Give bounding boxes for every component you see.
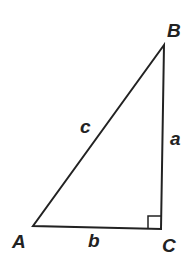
side-label-a: a: [170, 128, 181, 149]
vertex-label-b: B: [167, 20, 181, 41]
vertex-label-c: C: [162, 235, 176, 256]
triangle-diagram: B A C a b c: [0, 0, 195, 265]
vertex-label-a: A: [11, 231, 26, 252]
right-angle-marker: [148, 216, 161, 229]
triangle-shape: [33, 45, 164, 229]
side-label-c: c: [80, 116, 91, 137]
side-label-b: b: [88, 230, 100, 251]
